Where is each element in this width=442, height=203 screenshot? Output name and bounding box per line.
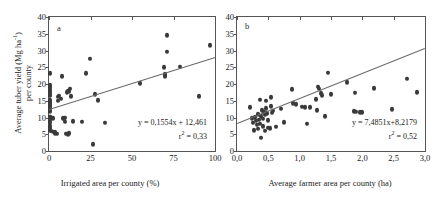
scatter-point: [248, 105, 252, 110]
y-tick-mark: [46, 134, 49, 135]
y-tick-label: 0: [42, 147, 46, 156]
x-tick-mark: [215, 17, 216, 20]
x-tick-mark: [49, 17, 50, 20]
y-tick-label: 35: [38, 30, 47, 39]
scatter-point: [329, 92, 333, 97]
scatter-point: [68, 86, 72, 91]
y-tick-label: 10: [226, 113, 235, 122]
x-tick-mark: [268, 17, 269, 20]
scatter-point: [165, 33, 169, 38]
scatter-point: [390, 107, 394, 112]
scatter-point: [59, 96, 63, 101]
y-tick-mark: [234, 67, 237, 68]
y-tick-mark: [46, 51, 49, 52]
plot-area-a: a 0510152025303540 0255075100 y = 0,1554…: [48, 16, 216, 152]
x-axis-title-a: Irrigated area per county (%): [10, 178, 210, 188]
scatter-point: [91, 142, 95, 147]
y-tick-mark: [234, 51, 237, 52]
scatter-point: [63, 116, 67, 121]
equation-text-b: y = 7,4851x+8,2179: [352, 117, 417, 129]
scatter-point: [259, 135, 263, 140]
y-tick-label: 15: [226, 97, 235, 106]
scatter-point: [294, 102, 298, 107]
scatter-point: [55, 131, 59, 136]
y-tick-label: 5: [230, 130, 234, 139]
trend-line: [49, 57, 215, 110]
y-tick-mark: [46, 151, 49, 152]
y-tick-label: 20: [38, 80, 47, 89]
x-tick-mark: [425, 17, 426, 20]
scatter-point: [264, 98, 268, 103]
scatter-point: [282, 120, 286, 125]
x-tick-label: 50: [128, 154, 137, 163]
scatter-point: [48, 71, 52, 76]
y-tick-mark: [234, 151, 237, 152]
x-tick-label: 2,5: [388, 154, 399, 163]
scatter-point: [415, 90, 419, 95]
scatter-point: [305, 121, 309, 126]
scatter-point: [96, 98, 100, 103]
y-tick-mark: [234, 34, 237, 35]
x-tick-mark: [331, 17, 332, 20]
scatter-point: [208, 43, 212, 48]
scatter-point: [353, 90, 357, 95]
scatter-point: [88, 57, 92, 62]
y-axis-title-superscript: -1: [12, 35, 18, 40]
y-tick-label: 40: [226, 13, 235, 22]
y-tick-mark: [234, 134, 237, 135]
scatter-point: [103, 121, 107, 126]
x-tick-label: 0,0: [232, 154, 243, 163]
x-tick-mark: [91, 17, 92, 20]
scatter-point: [71, 119, 75, 124]
y-tick-label: 25: [38, 63, 47, 72]
regression-annotation-b: y = 7,4851x+8,2179 r2 = 0,52: [352, 117, 417, 142]
scatter-point: [274, 125, 278, 130]
scatter-point: [252, 128, 256, 133]
y-tick-mark: [234, 118, 237, 119]
y-tick-mark: [234, 84, 237, 85]
scatter-point: [405, 76, 409, 81]
x-tick-mark: [174, 17, 175, 20]
x-tick-label: 3,0: [420, 154, 431, 163]
scatter-point: [84, 71, 88, 76]
x-tick-label: 1,5: [326, 154, 337, 163]
y-tick-label: 35: [226, 30, 235, 39]
x-tick-label: 100: [209, 154, 222, 163]
x-axis-title-b: Average farmer area per county (ha): [222, 178, 438, 188]
scatter-point: [326, 70, 330, 75]
y-tick-mark: [234, 101, 237, 102]
x-tick-mark: [132, 17, 133, 20]
scatter-point: [163, 74, 167, 79]
scatter-point: [69, 94, 73, 99]
x-tick-label: 2,0: [357, 154, 368, 163]
regression-annotation-a: y = 0,1554x + 12,461 r2 = 0,33: [138, 117, 207, 142]
scatter-point: [261, 117, 265, 122]
r-squared-a: r2 = 0,33: [138, 129, 207, 142]
y-axis-title-line1: Average tuber yield (Mg ha: [13, 40, 23, 134]
y-axis-title: Average tuber yield (Mg ha-1) per county: [12, 8, 34, 158]
plot-area-b: b 0510152025303540 0,00,51,01,52,02,53,0…: [236, 16, 426, 152]
equation-text-a: y = 0,1554x + 12,461: [138, 117, 207, 129]
y-tick-label: 5: [42, 130, 46, 139]
x-tick-label: 0,5: [263, 154, 274, 163]
panel-label-a: a: [57, 23, 61, 33]
y-tick-label: 30: [38, 46, 47, 55]
scatter-point: [258, 97, 262, 102]
y-tick-label: 15: [38, 97, 47, 106]
y-tick-label: 40: [38, 13, 47, 22]
y-tick-label: 20: [226, 80, 235, 89]
x-tick-label: 25: [86, 154, 95, 163]
scatter-point: [320, 93, 324, 98]
x-tick-mark: [237, 17, 238, 20]
x-tick-label: 1,0: [294, 154, 305, 163]
scatter-point: [315, 108, 319, 113]
scatter-point: [256, 127, 260, 132]
x-tick-mark: [394, 17, 395, 20]
y-axis-title-paren: ): [13, 32, 23, 35]
scatter-point: [314, 97, 318, 102]
scatter-point: [372, 86, 376, 91]
x-tick-mark: [362, 17, 363, 20]
scatter-point: [308, 105, 312, 110]
figure-container: Average tuber yield (Mg ha-1) per county…: [0, 0, 442, 203]
y-tick-label: 30: [226, 46, 235, 55]
